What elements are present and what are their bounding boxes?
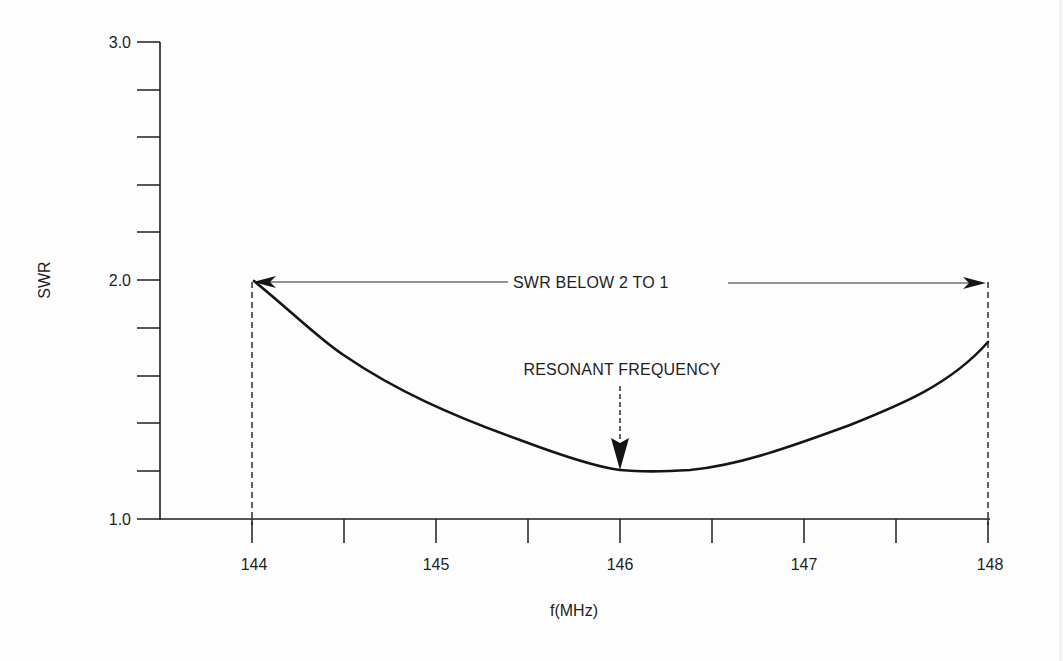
- y-axis-title: SWR: [36, 261, 53, 298]
- bandwidth-annotation: SWR BELOW 2 TO 1: [253, 274, 986, 291]
- y-axis-ticks: [137, 42, 160, 519]
- y-tick-label-1.0: 1.0: [109, 511, 131, 528]
- x-tick-label-147: 147: [791, 556, 818, 573]
- y-tick-label-2.0: 2.0: [109, 272, 131, 289]
- x-tick-label-144: 144: [241, 556, 268, 573]
- resonance-annotation: RESONANT FREQUENCY: [523, 361, 720, 470]
- x-axis-title: f(MHz): [550, 602, 598, 619]
- bandwidth-label: SWR BELOW 2 TO 1: [513, 274, 669, 291]
- x-axis-ticks: [252, 519, 988, 543]
- swr-chart: 3.0 2.0 1.0 SWR 144 145 146 147 14: [0, 0, 1063, 661]
- resonance-label: RESONANT FREQUENCY: [523, 361, 720, 378]
- x-axis: 144 145 146 147 148 f(MHz): [160, 519, 1003, 619]
- y-tick-label-3.0: 3.0: [109, 34, 131, 51]
- x-tick-label-148: 148: [977, 556, 1004, 573]
- x-tick-label-145: 145: [423, 556, 450, 573]
- x-tick-label-146: 146: [607, 556, 634, 573]
- y-axis: 3.0 2.0 1.0 SWR: [36, 34, 160, 528]
- scan-edge: [1059, 0, 1063, 661]
- arrow-down-icon: [611, 438, 629, 470]
